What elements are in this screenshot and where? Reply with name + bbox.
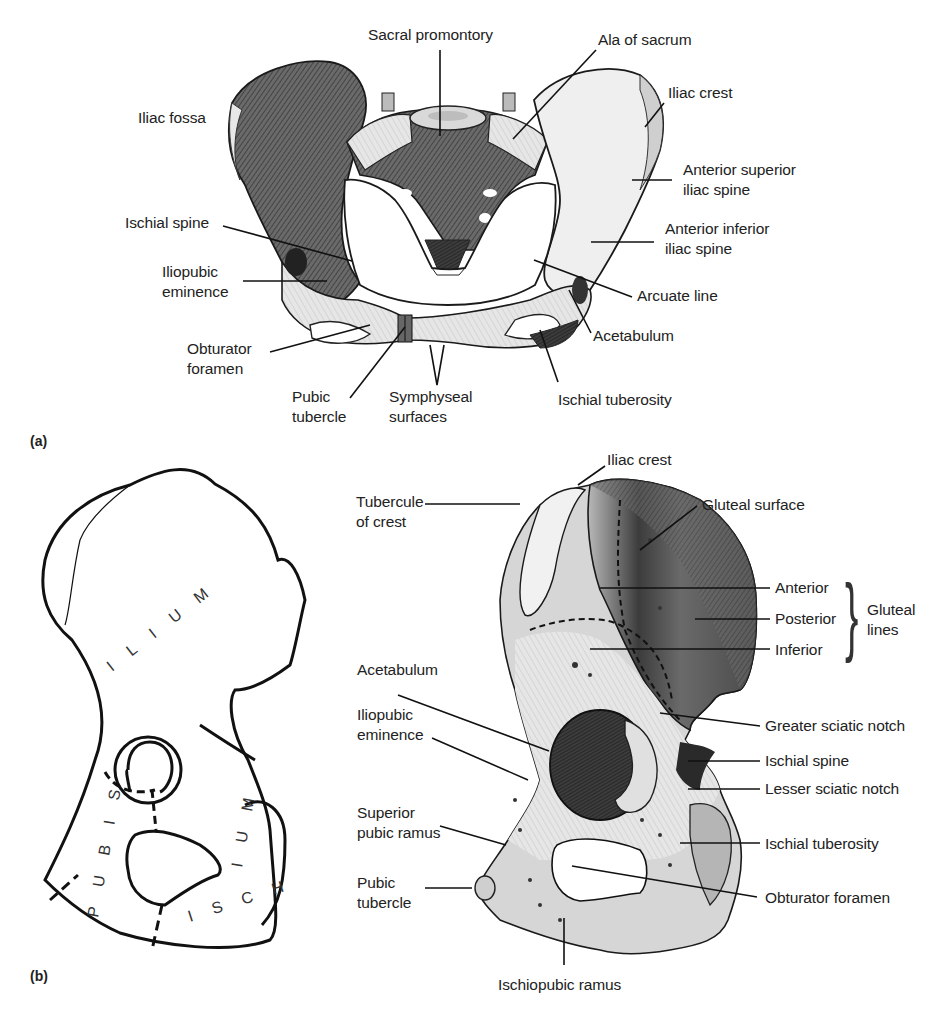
label-iliac-fossa: Iliac fossa — [138, 108, 206, 128]
label-symphyseal-surfaces: Symphyseal surfaces — [389, 387, 472, 427]
label-arcuate-line: Arcuate line — [637, 286, 718, 306]
gluteal-lines-brace: } — [845, 570, 858, 658]
label-gluteal-lines: Gluteal lines — [867, 600, 915, 640]
label-acetabulum-b: Acetabulum — [357, 660, 438, 680]
label-iliopubic-eminence-b: Iliopubic eminence — [357, 705, 423, 745]
label-obturator-foramen-b: Obturator foramen — [765, 888, 890, 908]
label-ischiopubic-ramus: Ischiopubic ramus — [498, 975, 621, 995]
label-ischial-spine-b: Ischial spine — [765, 751, 849, 771]
panel-a-tag: (a) — [30, 433, 47, 449]
label-iliopubic-eminence-a: Iliopubic eminence — [162, 262, 228, 302]
label-anterior-inferior-iliac-spine: Anterior inferior iliac spine — [665, 219, 769, 259]
hip-bone-schematic — [43, 470, 305, 950]
label-lesser-sciatic-notch: Lesser sciatic notch — [765, 779, 899, 799]
label-superior-pubic-ramus: Superior pubic ramus — [357, 803, 440, 843]
label-tubercule-of-crest: Tubercule of crest — [356, 492, 423, 532]
label-pubic-tubercle-b: Pubic tubercle — [357, 873, 411, 913]
label-gluteal-line-posterior: Posterior — [775, 609, 836, 629]
panel-b-tag: (b) — [30, 968, 48, 984]
anatomical-illustrations: I L I U M P U B I S I S C H I U M — [0, 0, 952, 1013]
label-gluteal-line-inferior: Inferior — [775, 640, 822, 660]
pelvis-anatomy-figure: I L I U M P U B I S I S C H I U M — [0, 0, 952, 1013]
label-ischial-spine-a: Ischial spine — [125, 213, 209, 233]
label-pubic-tubercle-a: Pubic tubercle — [292, 387, 346, 427]
label-ala-of-sacrum: Ala of sacrum — [598, 30, 691, 50]
label-sacral-promontory: Sacral promontory — [368, 25, 493, 45]
region-pubis: P U B I S — [84, 780, 125, 918]
label-iliac-crest-b: Iliac crest — [607, 450, 671, 470]
label-ischial-tuberosity-b: Ischial tuberosity — [765, 834, 879, 854]
region-ilium: I L I U M — [103, 580, 217, 675]
label-ischial-tuberosity-a: Ischial tuberosity — [558, 390, 672, 410]
svg-text:I U M: I U M — [228, 789, 258, 869]
label-iliac-crest-a: Iliac crest — [668, 83, 732, 103]
pelvis-anterior-drawing — [229, 61, 663, 348]
hip-bone-lateral-drawing — [475, 480, 756, 954]
label-obturator-foramen-a: Obturator foramen — [187, 339, 252, 379]
label-anterior-superior-iliac-spine: Anterior superior iliac spine — [683, 160, 796, 200]
region-labels: I L I U M P U B I S I S C H I U M — [84, 580, 293, 925]
label-greater-sciatic-notch: Greater sciatic notch — [765, 716, 905, 736]
label-gluteal-line-anterior: Anterior — [775, 578, 828, 598]
label-gluteal-surface: Gluteal surface — [702, 495, 805, 515]
label-acetabulum-a: Acetabulum — [593, 326, 674, 346]
